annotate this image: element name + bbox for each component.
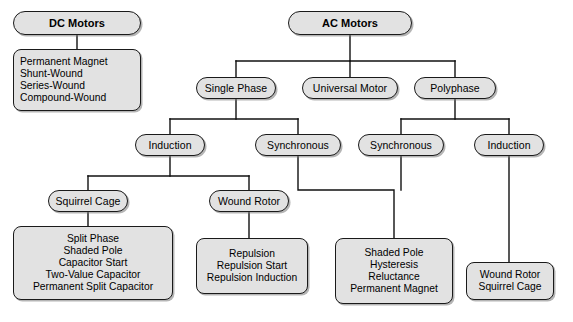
node-polyphase-synchronous-label: Synchronous (370, 139, 432, 151)
node-ac-motors-label: AC Motors (322, 17, 378, 30)
node-wound-rotor[interactable]: Wound Rotor (209, 190, 289, 212)
node-squirrel-cage-label: Squirrel Cage (56, 195, 121, 207)
node-ac-motors[interactable]: AC Motors (288, 11, 412, 35)
polyphase-synchronous-types-list: Shaded Pole Hysteresis Reluctance Perman… (342, 247, 446, 295)
list-item: Shunt-Wound (20, 68, 134, 80)
list-item: Permanent Magnet (342, 283, 446, 295)
node-wound-rotor-types[interactable]: Repulsion Repulsion Start Repulsion Indu… (196, 238, 308, 294)
node-universal-motor[interactable]: Universal Motor (302, 77, 398, 99)
list-item: Compound-Wound (20, 92, 134, 104)
node-wound-rotor-label: Wound Rotor (218, 195, 280, 207)
list-item: Shaded Pole (342, 247, 446, 259)
list-item: Repulsion Induction (203, 272, 301, 284)
list-item: Permanent Split Capacitor (20, 281, 166, 293)
node-universal-motor-label: Universal Motor (313, 82, 387, 94)
list-item: Reluctance (342, 271, 446, 283)
list-item: Wound Rotor (473, 269, 547, 281)
node-squirrel-cage[interactable]: Squirrel Cage (48, 190, 128, 212)
node-polyphase-induction-label: Induction (487, 139, 530, 151)
node-dc-motors[interactable]: DC Motors (13, 11, 141, 35)
list-item: Repulsion (203, 248, 301, 260)
node-dc-motor-types[interactable]: Permanent Magnet Shunt-Wound Series-Woun… (13, 49, 141, 111)
node-polyphase-induction-types[interactable]: Wound Rotor Squirrel Cage (466, 262, 554, 300)
dc-motor-types-list: Permanent Magnet Shunt-Wound Series-Woun… (20, 56, 134, 104)
polyphase-induction-types-list: Wound Rotor Squirrel Cage (473, 269, 547, 293)
node-single-phase-synchronous-label: Synchronous (267, 139, 329, 151)
list-item: Two-Value Capacitor (20, 269, 166, 281)
node-single-phase[interactable]: Single Phase (196, 77, 276, 99)
node-single-phase-synchronous[interactable]: Synchronous (255, 134, 341, 156)
motor-classification-diagram: DC Motors AC Motors Permanent Magnet Shu… (0, 0, 573, 322)
list-item: Split Phase (20, 233, 166, 245)
list-item: Permanent Magnet (20, 56, 134, 68)
list-item: Hysteresis (342, 259, 446, 271)
list-item: Capacitor Start (20, 257, 166, 269)
node-polyphase-induction[interactable]: Induction (474, 134, 544, 156)
node-polyphase[interactable]: Polyphase (414, 77, 496, 99)
list-item: Squirrel Cage (473, 281, 547, 293)
node-polyphase-synchronous[interactable]: Synchronous (358, 134, 444, 156)
node-squirrel-cage-types[interactable]: Split Phase Shaded Pole Capacitor Start … (13, 226, 173, 300)
wound-rotor-types-list: Repulsion Repulsion Start Repulsion Indu… (203, 248, 301, 284)
wire-spsynchronous-to-types (298, 156, 394, 238)
node-polyphase-synchronous-types[interactable]: Shaded Pole Hysteresis Reluctance Perman… (335, 238, 453, 304)
list-item: Series-Wound (20, 80, 134, 92)
node-polyphase-label: Polyphase (430, 82, 479, 94)
node-single-phase-induction-label: Induction (148, 139, 191, 151)
node-dc-motors-label: DC Motors (49, 17, 105, 30)
node-single-phase-label: Single Phase (205, 82, 267, 94)
list-item: Shaded Pole (20, 245, 166, 257)
node-single-phase-induction[interactable]: Induction (135, 134, 205, 156)
squirrel-cage-types-list: Split Phase Shaded Pole Capacitor Start … (20, 233, 166, 293)
list-item: Repulsion Start (203, 260, 301, 272)
